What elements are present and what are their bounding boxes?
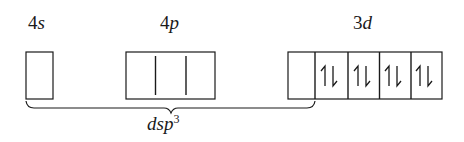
electron-pair-icon [385, 66, 401, 86]
hybridization-label: dsp3 [147, 113, 179, 133]
orbital-diagram: 4s 4p 3d [0, 0, 464, 142]
electron-pair-icon [321, 66, 337, 86]
orbital-box-3d [288, 52, 442, 99]
electron-pairs-3d [321, 66, 432, 86]
hybridization-brace [26, 101, 315, 113]
electron-pair-icon [416, 66, 432, 86]
orbital-box-4p [126, 52, 215, 99]
diagram-graphics [0, 0, 464, 142]
orbital-box-4s [26, 52, 53, 99]
hybridization-label-superscript: 3 [173, 112, 179, 126]
hybridization-label-main: dsp [147, 113, 173, 134]
electron-pair-icon [354, 66, 370, 86]
